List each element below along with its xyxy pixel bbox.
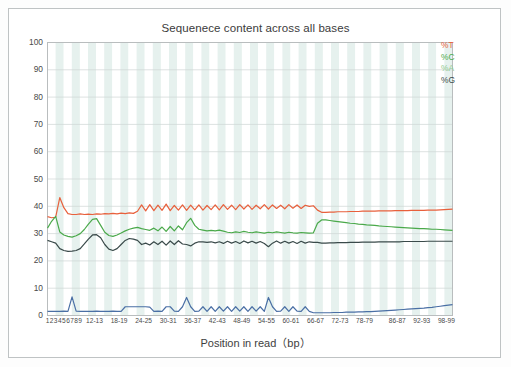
x-tick-label: 54-55 [258,317,275,324]
x-tick-label: 24-25 [135,317,152,324]
x-tick-label: 66-67 [307,317,324,324]
x-tick-label: 86-87 [389,317,406,324]
x-tick-label: 12-13 [86,317,103,324]
x-tick-label: 18-19 [111,317,128,324]
legend-entry-pct-C: %C [441,52,467,64]
legend-entry-pct-T: %T [441,40,467,52]
x-tick-label: 9 [78,317,82,324]
legend: %T%C%A%G [441,40,467,86]
y-tick-label: 70 [21,119,43,129]
x-tick-label: 60-61 [282,317,299,324]
y-tick-label: 100 [21,37,43,47]
x-tick-label: 42-43 [209,317,226,324]
x-tick-label: 48-49 [233,317,250,324]
y-tick-label: 30 [21,228,43,238]
x-tick-label: 72-73 [332,317,349,324]
x-tick-label: 78-79 [356,317,373,324]
y-tick-label: 50 [21,174,43,184]
y-tick-label: 90 [21,64,43,74]
x-tick-label: 30-31 [160,317,177,324]
legend-entry-pct-A: %A [441,63,467,75]
x-tick-label: 36-37 [184,317,201,324]
figure-container: Sequenece content across all bases 01020… [0,0,511,367]
y-tick-label: 40 [21,201,43,211]
legend-entry-pct-G: %G [441,75,467,87]
y-tick-label: 0 [21,310,43,320]
x-tick-label: 98-99 [438,317,455,324]
y-tick-label: 80 [21,92,43,102]
x-tick-label: 92-93 [413,317,430,324]
plot-area [0,0,511,367]
y-tick-label: 60 [21,146,43,156]
y-tick-label: 10 [21,283,43,293]
y-tick-label: 20 [21,255,43,265]
x-axis-label: Position in read（bp） [0,334,511,350]
